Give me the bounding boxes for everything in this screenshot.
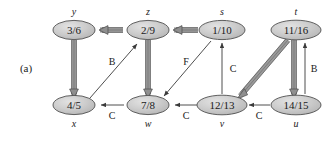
edge-label-cross-w-x: C xyxy=(109,110,116,121)
tree-edge-s-z xyxy=(173,26,198,35)
node-t-value: 11/16 xyxy=(284,24,309,36)
dfs-graph-canvas: 3/6 y 2/9 z 1/10 s 11/16 t 4/5 x xyxy=(0,0,333,144)
nontree-edges-group xyxy=(90,41,305,105)
panel-label: (a) xyxy=(20,62,33,75)
tree-edge-t-v xyxy=(237,38,290,99)
node-y-label: y xyxy=(71,6,77,17)
edge-s-w-forward xyxy=(164,41,211,96)
dfs-graph-figure: 3/6 y 2/9 z 1/10 s 11/16 t 4/5 x xyxy=(0,0,333,144)
node-v-label: v xyxy=(220,118,225,129)
node-s-value: 1/10 xyxy=(212,24,232,36)
edge-label-back-u-t: B xyxy=(311,63,318,74)
node-s-label: s xyxy=(220,6,224,17)
node-x-value: 4/5 xyxy=(67,99,82,111)
node-y[interactable]: 3/6 y xyxy=(53,6,95,40)
edge-label-cross-v-w: C xyxy=(183,110,190,121)
node-z-label: z xyxy=(145,6,150,17)
edge-label-forward-s-w: F xyxy=(183,56,189,67)
tree-edge-z-w xyxy=(144,40,153,98)
tree-edge-z-y xyxy=(99,26,123,35)
node-x-label: x xyxy=(71,118,77,129)
tree-edge-y-x xyxy=(70,40,79,98)
node-u[interactable]: 14/15 u xyxy=(271,95,321,129)
tree-edge-t-u xyxy=(290,40,299,98)
edge-x-z-back xyxy=(90,44,137,98)
node-y-value: 3/6 xyxy=(67,24,82,36)
node-z[interactable]: 2/9 z xyxy=(127,6,169,40)
node-z-value: 2/9 xyxy=(141,24,156,36)
node-x[interactable]: 4/5 x xyxy=(53,95,95,129)
edge-label-cross-u-v: C xyxy=(256,110,263,121)
node-v[interactable]: 12/13 v xyxy=(197,95,247,129)
node-t-label: t xyxy=(295,6,298,17)
node-u-label: u xyxy=(294,118,299,129)
node-w[interactable]: 7/8 w xyxy=(127,95,169,129)
node-w-label: w xyxy=(145,118,152,129)
edge-label-back-x-z: B xyxy=(109,56,116,67)
edge-label-cross-v-s: C xyxy=(230,63,237,74)
node-s[interactable]: 1/10 s xyxy=(199,6,245,40)
node-t[interactable]: 11/16 t xyxy=(271,6,321,40)
node-u-value: 14/15 xyxy=(283,99,309,111)
node-w-value: 7/8 xyxy=(141,99,156,111)
node-v-value: 12/13 xyxy=(209,99,235,111)
